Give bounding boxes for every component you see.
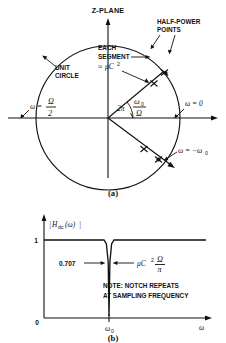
omega-half-label-prefix: ω = <box>30 102 42 111</box>
unit-circle-callout: UNIT CIRCLE <box>42 56 79 79</box>
panel-b-caption: (b) <box>108 333 119 343</box>
annotation-0707: 0.707 <box>59 260 76 267</box>
imaginary-axis <box>106 18 111 178</box>
magnitude-response-curve <box>44 240 206 316</box>
note-line-1: NOTE: NOTCH REPEATS <box>103 282 180 289</box>
figure-notch-filter: Z-PLANE HALF-POWER POINTS UNIT CIRCLE EA… <box>0 0 226 343</box>
ylabel-bar-open: | <box>49 220 51 229</box>
xtick-omega0-label: ω <box>105 324 110 333</box>
half-power-callout: HALF-POWER POINTS <box>151 18 201 54</box>
real-axis <box>8 116 218 121</box>
unit-circle-label-line1: UNIT <box>55 64 70 71</box>
response-y-axis-label: | H dc (ω) | <box>49 220 81 230</box>
each-segment-label-line1: EACH <box>98 44 116 51</box>
response-y-axis <box>42 214 47 318</box>
half-power-point-upper <box>163 71 167 75</box>
each-segment-exponent: 2 <box>117 61 120 67</box>
half-power-label-line2: POINTS <box>157 26 182 33</box>
annotation-denominator: π <box>158 265 163 274</box>
response-x-axis <box>44 316 212 321</box>
zplane-title: Z-PLANE <box>92 6 125 15</box>
each-segment-label-line2: SEGMENT <box>98 53 130 60</box>
ytick-label-one: 1 <box>34 237 38 244</box>
half-power-point-lower <box>156 157 160 161</box>
half-power-label-line1: HALF-POWER <box>157 18 201 25</box>
notch-bandwidth-annotation: μC 2 Ω π <box>113 255 165 274</box>
annotation-exponent: 2 <box>151 257 154 263</box>
panel-a-caption: (a) <box>108 188 118 198</box>
annotation-mu: μC <box>137 259 146 268</box>
omega-zero-label: ω = 0 <box>185 99 203 108</box>
panel-b-magnitude-response: | H dc (ω) | 1 0 ω 0 ω 0.707 <box>34 214 212 343</box>
panel-a-zplane: Z-PLANE HALF-POWER POINTS UNIT CIRCLE EA… <box>8 6 218 198</box>
figure-canvas: Z-PLANE HALF-POWER POINTS UNIT CIRCLE EA… <box>0 0 226 343</box>
each-segment-mu: μC <box>105 62 114 71</box>
note-line-2: AT SAMPLING FREQUENCY <box>103 292 189 300</box>
angle-numerator: ω <box>134 97 140 106</box>
annotation-numerator: Ω <box>157 255 163 264</box>
omega-negative-subscript: 0 <box>205 150 208 156</box>
ylabel-bar-close: | <box>79 220 81 229</box>
radius-negative-omega0 <box>108 118 175 168</box>
origin-label: 0 <box>35 319 39 326</box>
ylabel-subscript: dc <box>58 224 64 230</box>
angle-coefficient: 2π <box>117 104 125 113</box>
ylabel-argument: (ω) <box>65 220 76 229</box>
note-annotation: NOTE: NOTCH REPEATS AT SAMPLING FREQUENC… <box>103 282 189 300</box>
ylabel-h: H <box>51 220 58 229</box>
angle-numerator-subscript: 0 <box>141 101 144 107</box>
each-segment-approx: ≈ <box>98 62 102 71</box>
unit-circle-label-line2: CIRCLE <box>55 72 80 79</box>
omega-half-denominator: 2 <box>48 109 52 118</box>
half-power-level-annotation: 0.707 <box>59 260 105 267</box>
response-xlabel: ω <box>199 323 204 332</box>
each-segment-callout: EACH SEGMENT ≈ μC 2 <box>98 44 150 83</box>
omega-negative-label: ω = −ω <box>178 146 202 155</box>
angle-denominator: Ω <box>136 109 142 118</box>
omega-half-numerator: Ω <box>48 97 54 106</box>
